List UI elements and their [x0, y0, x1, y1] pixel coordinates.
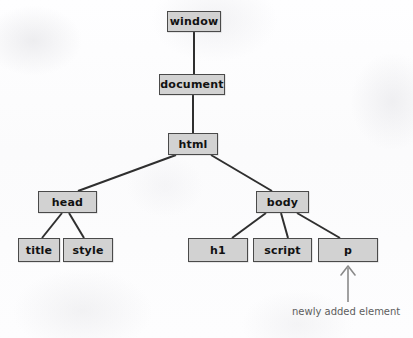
tree-node-label: p	[344, 245, 352, 256]
tree-edge-html-to-head	[78, 155, 176, 191]
tree-node-h1: h1	[188, 238, 248, 262]
tree-node-title: title	[18, 238, 60, 262]
tree-node-label: title	[26, 245, 53, 256]
tree-node-label: head	[52, 197, 83, 208]
tree-node-label: h1	[210, 245, 226, 256]
arrow-head-icon	[341, 266, 355, 275]
tree-node-html: html	[168, 133, 218, 155]
tree-edge-head-to-style	[69, 213, 84, 238]
tree-node-label: document	[160, 79, 223, 90]
tree-node-window: window	[167, 11, 221, 32]
tree-node-label: script	[264, 245, 301, 256]
tree-edge-head-to-title	[42, 213, 62, 238]
tree-node-body: body	[256, 191, 309, 213]
tree-node-label: html	[178, 139, 207, 150]
tree-edge-html-to-body	[211, 155, 272, 191]
tree-node-label: body	[267, 197, 298, 208]
tree-node-p: p	[318, 238, 378, 262]
tree-edge-body-to-script	[281, 213, 288, 238]
tree-node-head: head	[38, 191, 97, 213]
annotation-caption: newly added element	[292, 307, 400, 317]
tree-edge-body-to-p	[297, 213, 340, 238]
dom-tree-diagram: windowdocumenthtmlheadbodytitlestyleh1sc…	[0, 0, 413, 338]
tree-node-label: style	[72, 245, 103, 256]
tree-edges-layer	[0, 0, 413, 338]
tree-edge-body-to-h1	[232, 213, 266, 238]
annotation-arrow	[341, 266, 355, 302]
tree-node-label: window	[170, 16, 219, 27]
tree-node-script: script	[253, 238, 312, 262]
tree-node-style: style	[63, 238, 113, 262]
tree-node-document: document	[159, 74, 225, 95]
